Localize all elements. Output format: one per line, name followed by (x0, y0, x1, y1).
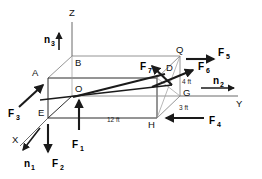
axis-x-line (20, 118, 48, 146)
vertex-label-E: E (38, 107, 44, 118)
vertex-label-Q: Q (176, 44, 183, 55)
edge-A-B (48, 56, 72, 78)
unit-vector-n1-sub: 1 (31, 164, 35, 171)
force-F1-sub: 1 (80, 145, 84, 152)
force-F4-label: F (209, 115, 215, 126)
diagonal-cross-line (40, 85, 172, 100)
vertex-label-H: H (148, 119, 155, 130)
vertex-label-D: D (166, 62, 173, 73)
axis-label-x: X (12, 134, 19, 145)
dimension-label-length: 12 ft (107, 116, 120, 123)
block-force-diagram: Z Y X n 3 n 2 n 1 F 1 F 2 F 3 F 4 (0, 0, 262, 179)
force-F7-label: F (140, 61, 146, 72)
unit-vector-n3-label: n (44, 34, 50, 45)
force-F2-label: F (52, 158, 58, 169)
force-F3-arrow (19, 85, 43, 107)
force-F3-label: F (8, 108, 14, 119)
vertex-label-O: O (75, 83, 82, 94)
unit-vector-n1-arrow (23, 128, 40, 150)
force-F5-sub: 5 (226, 53, 230, 60)
force-F5-label: F (218, 47, 224, 58)
force-F4-sub: 4 (217, 121, 221, 128)
vertex-label-B: B (75, 57, 81, 68)
axis-label-y: Y (236, 98, 243, 109)
edge-H-G (157, 96, 180, 118)
force-F7-sub: 7 (148, 67, 152, 74)
force-F2-sub: 2 (60, 164, 64, 171)
unit-vector-n1-label: n (24, 158, 30, 169)
force-F3-sub: 3 (16, 114, 20, 121)
unit-vector-n2-label: n (213, 75, 219, 86)
figure-root: Z Y X n 3 n 2 n 1 F 1 F 2 F 3 F 4 (0, 0, 262, 179)
axis-label-z: Z (69, 7, 75, 18)
force-F6-sub: 6 (206, 67, 210, 74)
unit-vector-n3-sub: 3 (51, 40, 55, 47)
space-diagonal-O-D (73, 74, 165, 97)
unit-vector-n2-sub: 2 (220, 81, 224, 88)
dimension-label-height: 4 ft (182, 78, 191, 85)
dimension-label-depth: 3 ft (179, 104, 188, 111)
force-F6-label: F (198, 61, 204, 72)
force-F1-label: F (72, 139, 78, 150)
vertex-label-A: A (32, 67, 39, 78)
vertex-label-G: G (183, 87, 190, 98)
